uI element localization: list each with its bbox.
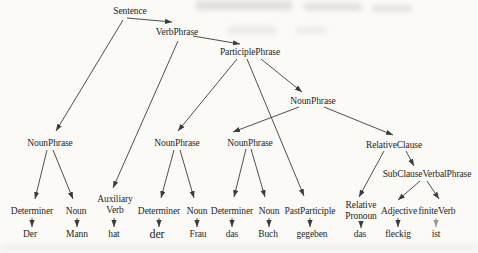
node-label: Auxiliary	[97, 194, 133, 205]
node-label: ist	[432, 229, 441, 240]
node-word-hat: hat	[108, 229, 119, 240]
node-label: Noun	[259, 206, 280, 217]
node-auxiliary-verb: AuxiliaryVerb	[97, 194, 133, 216]
node-noun-2: Noun	[187, 206, 208, 217]
node-word-frau: Frau	[189, 229, 206, 240]
node-label: RelativeClause	[366, 140, 422, 151]
node-label: Determiner	[211, 206, 253, 217]
node-label: Adjective	[381, 206, 417, 217]
node-determiner-2: Determiner	[138, 206, 180, 217]
node-nounphrase-subject: NounPhrase	[27, 138, 72, 149]
node-label: Verb	[97, 205, 133, 216]
node-sentence: Sentence	[113, 6, 147, 17]
node-label: Sentence	[113, 6, 147, 17]
node-label: Determiner	[11, 206, 53, 217]
node-nounphrase-dative: NounPhrase	[154, 138, 199, 149]
node-relativeclause: RelativeClause	[366, 140, 422, 151]
node-label: NounPhrase	[227, 138, 272, 149]
node-label: SubClauseVerbalPhrase	[383, 169, 472, 180]
node-label: Pronoun	[345, 211, 377, 222]
node-determiner-3: Determiner	[211, 206, 253, 217]
node-label: hat	[108, 229, 119, 240]
node-verbphrase: VerbPhrase	[156, 27, 198, 38]
node-finiteverb: finiteVerb	[419, 206, 456, 217]
node-label: finiteVerb	[419, 206, 456, 217]
node-label: Noun	[66, 206, 87, 217]
node-participlephrase: ParticiplePhrase	[220, 47, 280, 58]
node-pastparticiple: PastParticiple	[285, 206, 336, 217]
node-label: ParticiplePhrase	[220, 47, 280, 58]
node-label: Buch	[258, 229, 278, 240]
node-word-ist: ist	[432, 229, 441, 240]
node-label: Determiner	[138, 206, 180, 217]
node-relative-pronoun: RelativePronoun	[345, 200, 377, 222]
node-nounphrase-accusative: NounPhrase	[227, 138, 272, 149]
node-label: PastParticiple	[285, 206, 336, 217]
node-label: Der	[23, 229, 37, 240]
node-word-fleckig: fleckig	[385, 229, 411, 240]
node-label: NounPhrase	[154, 138, 199, 149]
parse-tree-diagram: SentenceVerbPhraseParticiplePhraseNounPh…	[0, 0, 478, 253]
node-label: das	[226, 229, 238, 240]
node-word-das-1: das	[226, 229, 238, 240]
node-label: gegeben	[297, 229, 328, 240]
node-label: Noun	[187, 206, 208, 217]
node-label: der	[149, 228, 164, 240]
node-noun-3: Noun	[259, 206, 280, 217]
node-word-mann: Mann	[66, 229, 88, 240]
node-determiner-1: Determiner	[11, 206, 53, 217]
node-noun-1: Noun	[66, 206, 87, 217]
node-word-das-2: das	[354, 229, 366, 240]
node-adjective: Adjective	[381, 206, 417, 217]
node-word-gegeben: gegeben	[297, 229, 328, 240]
node-label: das	[354, 229, 366, 240]
node-label: Frau	[189, 229, 206, 240]
node-word-buch: Buch	[258, 229, 278, 240]
tree-nodes-layer: SentenceVerbPhraseParticiplePhraseNounPh…	[0, 0, 478, 253]
node-label: NounPhrase	[290, 96, 335, 107]
node-label: NounPhrase	[27, 138, 72, 149]
node-subclauseverbalphrase: SubClauseVerbalPhrase	[383, 169, 472, 180]
node-label: fleckig	[385, 229, 411, 240]
node-label: Relative	[345, 200, 377, 211]
node-word-der-2: der	[149, 228, 164, 240]
node-word-der-1: Der	[23, 229, 37, 240]
node-label: VerbPhrase	[156, 27, 198, 38]
node-label: Mann	[66, 229, 88, 240]
node-nounphrase-object: NounPhrase	[290, 96, 335, 107]
